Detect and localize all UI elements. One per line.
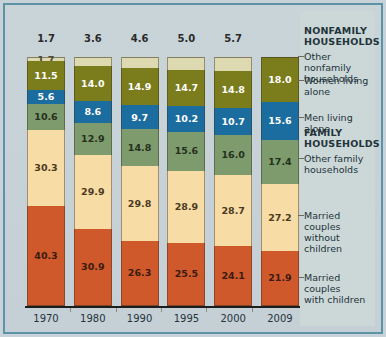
year-label-1970: 1970 xyxy=(27,313,65,329)
year-label-2009: 2009 xyxy=(261,313,299,329)
segment-value-label: 28.9 xyxy=(175,202,198,212)
segment-women-1970[interactable]: 11.5 xyxy=(27,61,65,90)
bar-1970[interactable]: 1.711.55.610.630.340.3 xyxy=(27,51,65,306)
segment-women-1980[interactable]: 14.0 xyxy=(74,66,112,101)
segment-marrwo-1995[interactable]: 28.9 xyxy=(167,171,205,243)
legend-other-family-households: Other familyhouseholds xyxy=(304,153,363,175)
legend-leader-line xyxy=(298,158,304,159)
segment-marrwo-1970[interactable]: 30.3 xyxy=(27,130,65,205)
segment-value-label: 10.2 xyxy=(175,114,198,124)
segment-value-label: 5.6 xyxy=(38,92,55,102)
segment-value-label: 24.1 xyxy=(221,271,244,281)
year-label-1980: 1980 xyxy=(74,313,112,329)
segment-value-label: 28.7 xyxy=(221,206,244,216)
legend-nonfamily-households-header: NONFAMILYHOUSEHOLDS xyxy=(304,25,380,47)
segment-marrwo-1990[interactable]: 29.8 xyxy=(121,166,159,240)
legend-line: without children xyxy=(304,232,375,254)
segment-otherfam-2009[interactable]: 17.4 xyxy=(261,140,299,183)
legend-leader-line xyxy=(298,80,304,81)
top-total-1980: 3.6 xyxy=(74,33,112,47)
segment-nonfam-2000[interactable] xyxy=(214,57,252,71)
segment-marrw-1990[interactable]: 26.3 xyxy=(121,241,159,306)
bar-2009[interactable]: 18.015.617.427.221.9 xyxy=(261,51,299,306)
legend-married-couples-without-children: Married coupleswithout children xyxy=(304,210,375,254)
segment-value-label: 17.4 xyxy=(268,157,291,167)
bar-1995[interactable]: 14.710.215.628.925.5 xyxy=(167,51,205,306)
segment-men-1970[interactable]: 5.6 xyxy=(27,90,65,104)
segment-women-1990[interactable]: 14.9 xyxy=(121,68,159,105)
segment-value-label: 8.6 xyxy=(84,107,101,117)
segment-value-label: 30.3 xyxy=(34,163,57,173)
bar-1990[interactable]: 14.99.714.829.826.3 xyxy=(121,51,159,306)
legend-line: Married couples xyxy=(304,272,375,294)
segment-otherfam-1980[interactable]: 12.9 xyxy=(74,123,112,155)
legend-line: Other family xyxy=(304,153,363,164)
bar-2000[interactable]: 14.810.716.028.724.1 xyxy=(214,51,252,306)
segment-value-label: 14.8 xyxy=(221,85,244,95)
legend-line: NONFAMILY xyxy=(304,25,380,36)
x-tick xyxy=(116,308,117,312)
segment-value-label: 14.7 xyxy=(175,83,198,93)
x-tick xyxy=(206,308,207,312)
segment-marrw-1980[interactable]: 30.9 xyxy=(74,229,112,306)
top-total-1995: 5.0 xyxy=(167,33,205,47)
segment-value-label: 14.9 xyxy=(128,82,151,92)
chart-root: 1.73.64.65.05.7 1.711.55.610.630.340.314… xyxy=(0,0,386,337)
segment-value-label: 14.0 xyxy=(81,79,104,89)
legend-line: Married couples xyxy=(304,210,375,232)
segment-nonfam-1990[interactable] xyxy=(121,57,159,68)
segment-women-2009[interactable]: 18.0 xyxy=(261,57,299,102)
segment-marrw-2000[interactable]: 24.1 xyxy=(214,246,252,306)
segment-otherfam-1970[interactable]: 10.6 xyxy=(27,104,65,130)
x-axis-year-labels: 197019801990199520002009 xyxy=(27,313,299,329)
legend-line: Women living xyxy=(304,75,368,86)
segment-men-2009[interactable]: 15.6 xyxy=(261,102,299,141)
segment-nonfam-1980[interactable] xyxy=(74,57,112,66)
legend-panel: NONFAMILYHOUSEHOLDSOther nonfamilyhouseh… xyxy=(300,11,375,326)
legend-leader-line xyxy=(298,117,304,118)
year-label-1995: 1995 xyxy=(167,313,205,329)
segment-value-label: 21.9 xyxy=(268,273,291,283)
segment-value-label: 11.5 xyxy=(34,71,57,81)
bar-1980[interactable]: 14.08.612.929.930.9 xyxy=(74,51,112,306)
legend-leader-line xyxy=(298,277,304,278)
top-total-1990: 4.6 xyxy=(121,33,159,47)
segment-value-label: 40.3 xyxy=(34,251,57,261)
segment-men-1995[interactable]: 10.2 xyxy=(167,106,205,131)
segment-value-label: 18.0 xyxy=(268,75,291,85)
x-tick xyxy=(70,308,71,312)
segment-marrwo-2009[interactable]: 27.2 xyxy=(261,184,299,252)
legend-leader-line xyxy=(298,56,304,57)
segment-nonfam-1995[interactable] xyxy=(167,57,205,69)
segment-marrw-1970[interactable]: 40.3 xyxy=(27,206,65,306)
segment-men-2000[interactable]: 10.7 xyxy=(214,108,252,135)
segment-marrw-2009[interactable]: 21.9 xyxy=(261,251,299,306)
segment-otherfam-1990[interactable]: 14.8 xyxy=(121,129,159,166)
top-total-1970: 1.7 xyxy=(27,33,65,47)
legend-married-couples-with-children: Married coupleswith children xyxy=(304,272,375,305)
legend-line: alone xyxy=(304,86,368,97)
segment-otherfam-2000[interactable]: 16.0 xyxy=(214,135,252,175)
segment-women-2000[interactable]: 14.8 xyxy=(214,71,252,108)
segment-value-label: 10.6 xyxy=(34,112,57,122)
segment-value-label: 29.8 xyxy=(128,199,151,209)
segment-marrwo-1980[interactable]: 29.9 xyxy=(74,155,112,229)
legend-leader-line xyxy=(298,215,304,216)
segment-otherfam-1995[interactable]: 15.6 xyxy=(167,132,205,171)
segment-value-label: 30.9 xyxy=(81,262,104,272)
segment-women-1995[interactable]: 14.7 xyxy=(167,70,205,107)
segment-value-label: 14.8 xyxy=(128,143,151,153)
segment-value-label: 16.0 xyxy=(221,150,244,160)
segment-marrw-1995[interactable]: 25.5 xyxy=(167,243,205,306)
x-tick xyxy=(161,308,162,312)
top-total-2000: 5.7 xyxy=(214,33,252,47)
chart-frame: 1.73.64.65.05.7 1.711.55.610.630.340.314… xyxy=(3,3,383,334)
segment-value-label: 29.9 xyxy=(81,187,104,197)
segment-marrwo-2000[interactable]: 28.7 xyxy=(214,175,252,246)
segment-men-1990[interactable]: 9.7 xyxy=(121,105,159,129)
segment-value-label: 9.7 xyxy=(131,113,148,123)
top-total-labels: 1.73.64.65.05.7 xyxy=(27,33,299,47)
year-label-2000: 2000 xyxy=(214,313,252,329)
segment-men-1980[interactable]: 8.6 xyxy=(74,101,112,122)
segment-value-label: 27.2 xyxy=(268,213,291,223)
